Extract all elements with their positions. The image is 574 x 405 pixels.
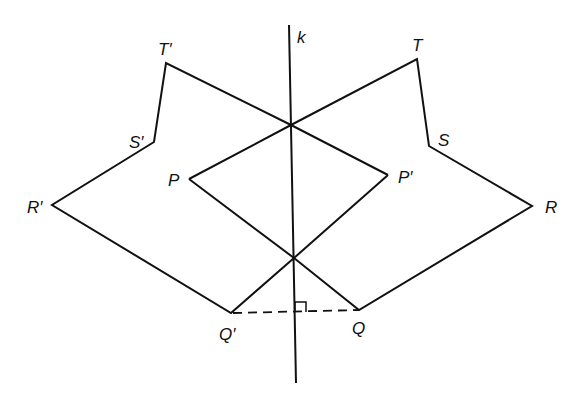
label-t: T [412,36,424,55]
label-s-prime: S′ [129,133,144,152]
segment-q-qprime [233,310,359,313]
reflection-diagram: k T′ S′ R′ P Q′ T S R P′ Q [0,0,574,405]
label-q-prime: Q′ [219,325,236,344]
line-k [289,25,296,383]
label-s: S [438,131,450,150]
label-p-prime: P′ [398,168,413,187]
polygon-original [189,59,532,310]
label-k: k [297,28,307,47]
label-r-prime: R′ [27,198,43,217]
label-t-prime: T′ [158,40,172,59]
label-q: Q [352,319,365,338]
label-r: R [545,198,557,217]
label-p: P [168,171,180,190]
